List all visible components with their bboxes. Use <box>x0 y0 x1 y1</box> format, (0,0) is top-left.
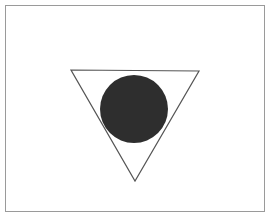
figure-canvas: Dark circle inside downward-pointing tri… <box>0 0 272 218</box>
shape-canvas <box>0 0 272 218</box>
dark-circle <box>100 75 168 143</box>
